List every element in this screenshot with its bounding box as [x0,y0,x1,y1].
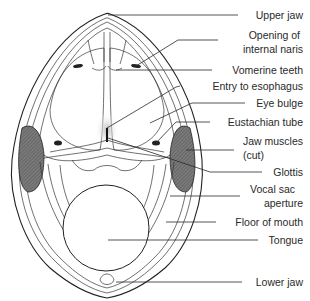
label-opening-internal-naris-1: Opening of [249,29,300,41]
label-vocal-sac-1: Vocal sac [250,183,295,195]
label-jaw-muscles-1: Jaw muscles [243,135,303,147]
label-opening-internal-naris-2: internal naris [243,43,303,55]
label-vomerine-teeth: Vomerine teeth [232,64,303,76]
labels: Upper jaw Opening of internal naris Vome… [213,9,304,288]
label-vocal-sac-2: aperture [264,197,303,209]
label-eye-bulge: Eye bulge [256,97,303,109]
tongue [63,185,149,271]
label-tongue: Tongue [269,234,304,246]
label-eustachian-tube: Eustachian tube [228,116,303,128]
label-lower-jaw: Lower jaw [256,276,304,288]
frog-mouth-diagram: Upper jaw Opening of internal naris Vome… [0,0,310,301]
label-upper-jaw: Upper jaw [256,9,304,21]
label-jaw-muscles-2: (cut) [243,149,264,161]
left-internal-naris [73,63,83,68]
label-entry-to-esophagus: Entry to esophagus [213,80,303,92]
label-floor-of-mouth: Floor of mouth [235,216,303,228]
label-glottis: Glottis [273,166,303,178]
left-eustachian-tube [54,141,62,146]
